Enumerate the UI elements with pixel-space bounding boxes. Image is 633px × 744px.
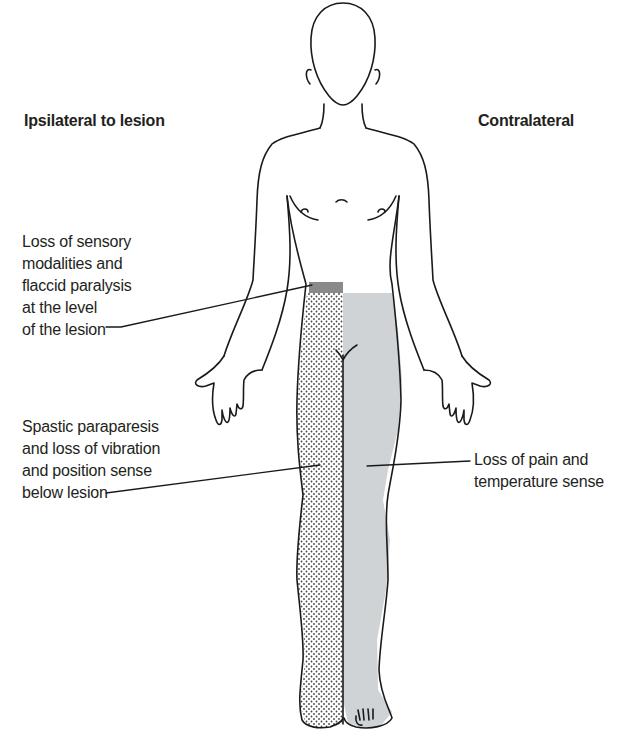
annotation-ipsilateral-below-lesion: Spastic paraparesis and loss of vibratio… [22, 416, 160, 504]
heading-ipsilateral: Ipsilateral to lesion [24, 112, 165, 130]
lesion-band [309, 282, 343, 293]
ipsilateral-stipple [297, 293, 343, 728]
annotation-lesion-level: Loss of sensory modalities and flaccid p… [22, 231, 132, 341]
heading-contralateral: Contralateral [478, 112, 574, 130]
hemisection-body-diagram: Ipsilateral to lesion Contralateral Loss… [0, 0, 633, 744]
annotation-contralateral-below-lesion: Loss of pain and temperature sense [474, 449, 604, 493]
contralateral-shading [343, 293, 402, 728]
